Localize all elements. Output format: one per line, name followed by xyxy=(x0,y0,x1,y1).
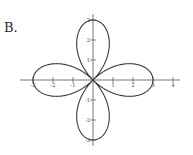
axes xyxy=(20,14,180,146)
y-tick-label: 1 xyxy=(87,57,90,63)
x-tick-label: -1 xyxy=(71,82,76,88)
y-tick-label: -1 xyxy=(85,97,90,103)
x-tick-label: -2 xyxy=(51,82,56,88)
x-tick-label: 4 xyxy=(171,82,174,88)
polar-rose-plot: -3-2-11234321-1-2-3 xyxy=(0,0,193,155)
y-tick-label: -2 xyxy=(85,117,90,123)
y-tick-label: 2 xyxy=(87,37,90,43)
x-tick-label: 2 xyxy=(131,82,134,88)
x-tick-label: 1 xyxy=(111,82,114,88)
